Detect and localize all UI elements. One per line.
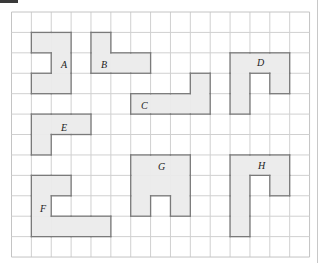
shape-a: A	[31, 32, 71, 94]
shape-label: H	[257, 160, 266, 171]
shape-d: D	[230, 53, 290, 115]
shape-label: F	[39, 203, 47, 214]
shape-label: B	[101, 59, 107, 70]
shape-label: A	[60, 59, 68, 70]
shape-label: G	[158, 161, 165, 172]
shape-label: E	[60, 122, 67, 133]
shape-label: C	[141, 100, 148, 111]
grid-figure: ABCDEFGH	[0, 0, 322, 263]
shape-g: G	[131, 155, 191, 217]
shape-e: E	[31, 114, 91, 155]
square-grid: ABCDEFGH	[0, 0, 322, 263]
shape-b: B	[91, 32, 151, 73]
shape-label: D	[256, 57, 265, 68]
